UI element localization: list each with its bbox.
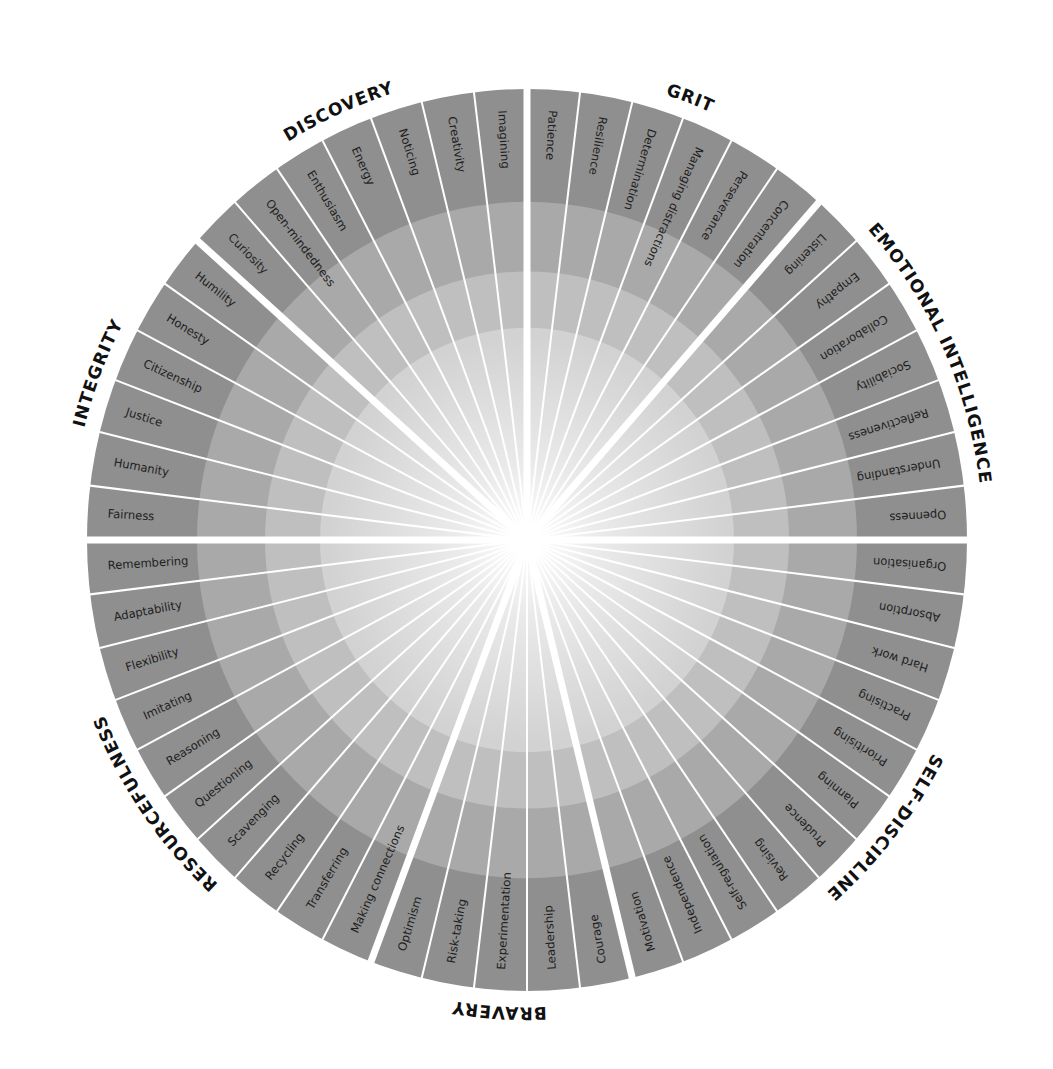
- center-glow: [327, 335, 727, 745]
- category-label-bravery: BRAVERY: [450, 997, 547, 1023]
- item-label: Patience: [543, 110, 560, 161]
- item-label: Fairness: [107, 506, 154, 523]
- learning-dispositions-wheel: PatienceResilienceDeterminationManaging …: [0, 0, 1053, 1069]
- category-label-grit: GRIT: [664, 79, 717, 116]
